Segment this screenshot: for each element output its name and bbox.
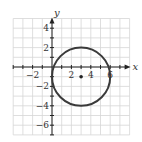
- ticks: [13, 28, 120, 135]
- y-tick-label: 2: [43, 43, 49, 53]
- y-axis-label: y: [53, 7, 60, 18]
- y-tick-label: −2: [36, 81, 49, 91]
- x-axis-label: x: [133, 61, 139, 72]
- x-tick-label: −2: [26, 70, 39, 80]
- y-tick-label: 4: [43, 23, 49, 33]
- x-tick-label: 6: [107, 70, 113, 80]
- center-point: [79, 75, 83, 79]
- y-tick-label: −6: [36, 120, 50, 130]
- x-tick-label: 4: [88, 70, 94, 80]
- x-tick-label: 2: [69, 70, 75, 80]
- coordinate-graph: x y −224642−2−4−6: [0, 0, 142, 142]
- y-tick-label: −4: [36, 101, 50, 111]
